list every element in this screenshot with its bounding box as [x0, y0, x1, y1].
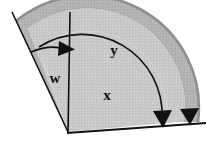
label-y: y — [110, 42, 118, 58]
figure-container: w x y — [0, 0, 207, 142]
angular-sector-diagram: w x y — [0, 0, 207, 142]
label-x: x — [103, 87, 111, 103]
label-w: w — [50, 70, 61, 86]
